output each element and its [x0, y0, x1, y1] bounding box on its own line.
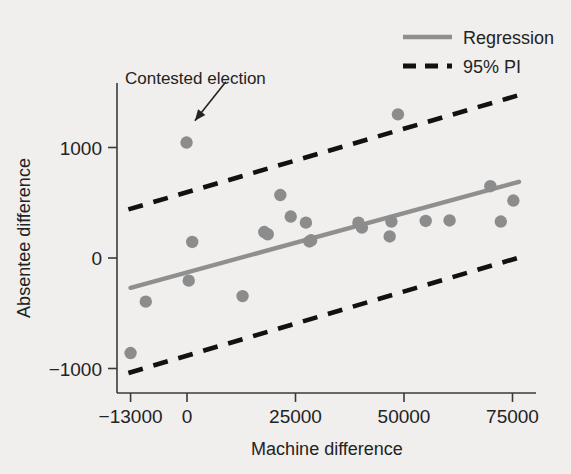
x-tick-label: 0: [182, 406, 193, 427]
scatter-point: [236, 290, 248, 302]
scatter-point: [140, 295, 152, 307]
scatter-point: [383, 230, 395, 242]
scatter-point: [183, 274, 195, 286]
prediction-interval-upper-line: [128, 94, 521, 209]
x-axis-tick-labels: −130000250005000075000: [99, 406, 539, 427]
scatter-point: [385, 215, 397, 227]
annotation-arrow-head: [195, 109, 205, 121]
scatter-point: [443, 214, 455, 226]
y-axis-ticks: [108, 148, 117, 369]
x-tick-label: −13000: [99, 406, 163, 427]
scatter-point: [274, 189, 286, 201]
legend-label-regression: Regression: [463, 28, 554, 48]
annotation-label: Contested election: [125, 69, 266, 88]
scatter-point: [420, 215, 432, 227]
scatter-point: [484, 180, 496, 192]
y-axis-tick-labels: 10000−1000: [49, 138, 102, 380]
scatter-plot-figure: Regression 95% PI 10000−1000 −1300002500…: [0, 0, 571, 474]
scatter-point: [300, 216, 312, 228]
x-tick-label: 75000: [486, 406, 539, 427]
plot-canvas: Regression 95% PI 10000−1000 −1300002500…: [0, 0, 571, 474]
scatter-point: [305, 234, 317, 246]
scatter-point: [262, 228, 274, 240]
annotation-contested-election: Contested election: [125, 69, 266, 121]
regression-line: [131, 182, 519, 288]
x-tick-label: 50000: [378, 406, 431, 427]
scatter-point: [285, 210, 297, 222]
axes: [108, 83, 536, 402]
x-axis-title: Machine difference: [251, 439, 403, 459]
scatter-point: [507, 194, 519, 206]
y-tick-label: 1000: [60, 138, 102, 159]
x-tick-label: 25000: [269, 406, 322, 427]
y-tick-label: 0: [91, 248, 102, 269]
scatter-point: [180, 136, 192, 148]
legend-label-prediction-interval: 95% PI: [463, 57, 521, 77]
scatter-point: [392, 108, 404, 120]
chart-legend: Regression 95% PI: [403, 28, 554, 77]
x-axis-ticks: [131, 393, 513, 402]
scatter-point: [356, 221, 368, 233]
y-axis-title: Absentee difference: [14, 158, 34, 318]
scatter-point: [495, 215, 507, 227]
scatter-point: [124, 347, 136, 359]
scatter-point: [186, 236, 198, 248]
y-tick-label: −1000: [49, 359, 102, 380]
